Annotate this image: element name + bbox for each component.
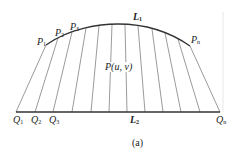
label-p3: P3 [70, 22, 79, 32]
label-q1: Q1 [13, 115, 23, 125]
label-qn: Qn [216, 115, 226, 125]
curve-l1 [46, 24, 190, 46]
label-p2: P2 [55, 28, 64, 38]
label-pn: Pn [191, 35, 200, 45]
label-p1: P1 [37, 37, 46, 47]
label-l1: L1 [133, 12, 142, 22]
label-p-uv: P(u, v) [104, 62, 133, 72]
label-l2: L2 [130, 115, 139, 125]
diagram-canvas [0, 0, 236, 159]
figure-caption: (a) [132, 138, 143, 148]
label-q3: Q3 [49, 115, 59, 125]
ruled-surface-diagram: P1 P2 P3 L1 Pn P(u, v) Q1 Q2 Q3 L2 Qn (a… [0, 0, 236, 159]
label-q2: Q2 [31, 115, 41, 125]
